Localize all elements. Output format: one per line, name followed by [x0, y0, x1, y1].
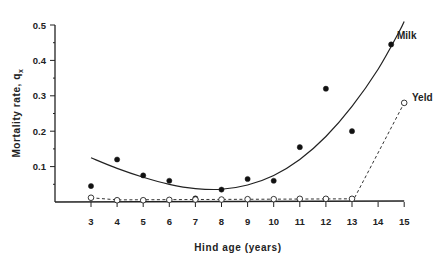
y-tick-label: 0.5: [33, 20, 47, 31]
milk-data-point: [219, 187, 224, 192]
x-tick-label: 13: [347, 216, 358, 227]
y-axis-title-main: Mortality rate, q: [11, 73, 22, 158]
x-tick-label: 3: [88, 216, 93, 227]
yeld-data-point: [193, 197, 199, 203]
milk-data-point: [141, 173, 146, 178]
yeld-data-point: [219, 197, 225, 203]
milk-data-point: [349, 129, 354, 134]
y-axis-title: Mortality rate, qx: [11, 68, 24, 157]
x-axis-title: Hind age (years): [194, 242, 281, 253]
x-tick-label: 12: [321, 216, 332, 227]
x-tick-label: 10: [268, 216, 279, 227]
yeld-data-point: [245, 196, 251, 202]
x-tick-label: 8: [219, 216, 224, 227]
y-tick-label: 0.4: [33, 55, 47, 66]
milk-data-point: [271, 178, 276, 183]
yeld-data-point: [271, 196, 277, 202]
milk-data-point: [323, 86, 328, 91]
milk-data-point: [115, 157, 120, 162]
yeld-data-point: [349, 196, 355, 202]
series-label-milk: Milk: [397, 30, 417, 41]
milk-data-point: [88, 183, 93, 188]
x-tick-label: 6: [167, 216, 172, 227]
yeld-data-point: [167, 197, 173, 203]
x-tick-label: 7: [193, 216, 198, 227]
yeld-data-point: [114, 197, 120, 203]
x-tick-label: 15: [399, 216, 410, 227]
y-tick-label: 0.1: [33, 161, 47, 172]
milk-data-point: [245, 176, 250, 181]
yeld-data-point: [323, 196, 329, 202]
x-tick-label: 14: [373, 216, 384, 227]
yeld-data-point: [88, 195, 94, 201]
yeld-data-point: [401, 100, 407, 106]
yeld-data-point: [297, 196, 303, 202]
milk-fit-curve: [91, 21, 404, 189]
data-points: [88, 42, 407, 203]
x-tick-label: 4: [114, 216, 120, 227]
y-axis-title-subscript: x: [17, 68, 24, 73]
x-tick-label: 9: [245, 216, 250, 227]
milk-data-point: [389, 42, 394, 47]
mortality-chart: 0.10.20.30.40.5 3456789101112131415 Hind…: [0, 0, 443, 265]
series-label-yeld: Yeld: [412, 92, 433, 103]
fit-lines: [91, 21, 404, 199]
x-axis: 3456789101112131415: [55, 201, 410, 227]
x-tick-label: 5: [141, 216, 147, 227]
y-tick-label: 0.2: [33, 126, 46, 137]
y-tick-label: 0.3: [33, 90, 46, 101]
x-tick-label: 11: [295, 216, 306, 227]
yeld-data-point: [140, 197, 146, 203]
milk-data-point: [167, 178, 172, 183]
milk-data-point: [297, 145, 302, 150]
y-axis: 0.10.20.30.40.5: [33, 20, 55, 203]
